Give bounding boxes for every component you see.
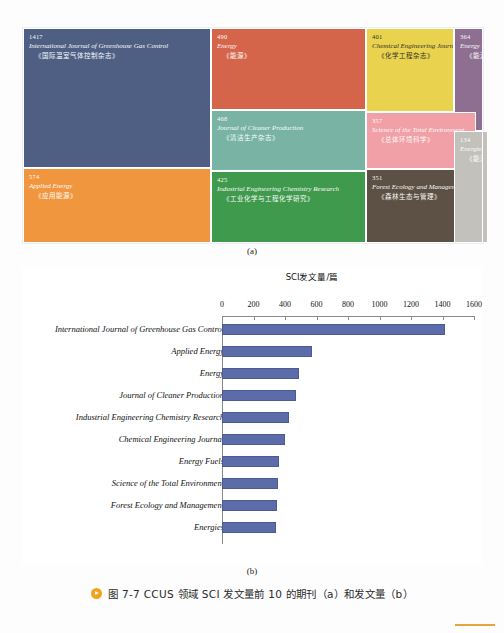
x-axis-tick <box>285 316 286 320</box>
figure-caption: 图 7-7 CCUS 领域 SCI 发文量前 10 的期刊（a）和发文量（b） <box>0 586 504 601</box>
treemap-cell-count: 490 <box>217 33 360 41</box>
bar-row: International Journal of Greenhouse Gas … <box>22 323 482 345</box>
bar-row-label: Energy Fuels <box>0 455 224 467</box>
treemap-cell-title-cn: 《国际温室气体控制杂志》 <box>29 51 205 61</box>
treemap-panel-a: 1417 International Journal of Greenhouse… <box>22 27 484 244</box>
treemap-cell-energy[interactable]: 490 Energy 《能源》 <box>211 28 366 110</box>
x-axis-tick <box>254 316 255 320</box>
treemap-cell-journal-of-cleaner-production[interactable]: 468 Journal of Cleaner Production 《清洁生产杂… <box>211 110 366 171</box>
bar-row: Chemical Engineering Journal <box>22 433 482 455</box>
x-axis-tick-label: 1200 <box>396 300 426 309</box>
x-axis-tick-label: 800 <box>333 300 363 309</box>
bullet-play-icon <box>91 588 102 599</box>
bar[interactable] <box>222 456 279 467</box>
x-axis-tick-label: 1000 <box>365 300 395 309</box>
bar-row-label: International Journal of Greenhouse Gas … <box>0 323 224 335</box>
treemap-cell-title-en: Journal of Cleaner Production <box>217 123 360 133</box>
panel-b-label: (b) <box>0 566 504 576</box>
x-axis-tick <box>380 316 381 320</box>
bar[interactable] <box>222 368 299 379</box>
treemap-cell-title-cn: 《能源燃料》 <box>460 51 477 61</box>
bar-row-label: Science of the Total Environment <box>0 477 224 489</box>
bar-row: Industrial Engineering Chemistry Researc… <box>22 411 482 433</box>
treemap-cell-international-journal-of-greenhouse-gas-control[interactable]: 1417 International Journal of Greenhouse… <box>23 28 211 168</box>
x-axis-tick <box>348 316 349 320</box>
treemap-cell-count: 357 <box>372 117 470 125</box>
x-axis-tick <box>222 316 223 320</box>
bar-row-label: Journal of Cleaner Production <box>0 389 224 401</box>
bar[interactable] <box>222 522 276 533</box>
bar-row: Applied Energy <box>22 345 482 367</box>
bar[interactable] <box>222 324 445 335</box>
figure-caption-text: 图 7-7 CCUS 领域 SCI 发文量前 10 的期刊（a）和发文量（b） <box>108 588 413 600</box>
x-axis-tick-label: 200 <box>239 300 269 309</box>
treemap-cell-title-cn: 《工业化学与工程化学研究》 <box>217 194 360 204</box>
treemap-cell-industrial-engineering-chemistry-research[interactable]: 425 Industrial Engineering Chemistry Res… <box>211 171 366 243</box>
treemap-cell-title-en: International Journal of Greenhouse Gas … <box>29 41 205 51</box>
treemap-cell-title-cn: 《能源》 <box>217 51 360 61</box>
panel-a-label: (a) <box>0 246 504 256</box>
x-axis-tick-label: 600 <box>302 300 332 309</box>
treemap-cell-count: 425 <box>217 176 360 184</box>
bar-row: Energy Fuels <box>22 455 482 477</box>
treemap-cell-title-en: Chemical Engineering Journal <box>372 41 448 51</box>
treemap-cell-count: 364 <box>460 33 477 41</box>
bar-row-label: Industrial Engineering Chemistry Researc… <box>0 411 224 423</box>
bar-row-label: Chemical Engineering Journal <box>0 433 224 445</box>
bar[interactable] <box>222 500 277 511</box>
treemap-cell-title-cn: 《能源》 <box>460 154 477 164</box>
treemap-cell-title-cn: 《清洁生产杂志》 <box>217 133 360 143</box>
bar-row: Journal of Cleaner Production <box>22 389 482 411</box>
bar-row-label: Applied Energy <box>0 345 224 357</box>
bar-row: Forest Ecology and Management <box>22 499 482 521</box>
treemap-cell-energies-body[interactable]: 134 Energies 《能源》 <box>454 131 483 243</box>
bar[interactable] <box>222 434 285 445</box>
bar[interactable] <box>222 412 289 423</box>
bar[interactable] <box>222 346 312 357</box>
x-axis-tick <box>317 316 318 320</box>
x-axis-tick-label: 400 <box>270 300 300 309</box>
bar-row: Energy <box>22 367 482 389</box>
x-axis-tick-label: 1600 <box>459 300 489 309</box>
treemap-cell-title-cn: 《应用能源》 <box>29 191 205 201</box>
treemap-cell-count: 1417 <box>29 33 205 41</box>
treemap-cell-title-en: Energy <box>217 41 360 51</box>
treemap-cell-chemical-engineering-journal[interactable]: 401 Chemical Engineering Journal 《化学工程杂志… <box>366 28 454 112</box>
treemap-cell-title-cn: 《化学工程杂志》 <box>372 51 448 61</box>
treemap-cell-count: 468 <box>217 115 360 123</box>
x-axis-tick <box>411 316 412 320</box>
treemap-cell-count: 134 <box>460 136 477 144</box>
treemap-cell-title-en: Energy Fuels <box>460 41 477 51</box>
treemap-cell-applied-energy[interactable]: 574 Applied Energy 《应用能源》 <box>23 168 211 243</box>
bar-row-label: Energy <box>0 367 224 379</box>
figure-page: 1417 International Journal of Greenhouse… <box>0 0 504 633</box>
x-axis-tick <box>474 316 475 320</box>
x-axis-tick-label: 0 <box>207 300 237 309</box>
bar-chart-panel-b: SCI发文量/篇 02004006008001000120014001600 I… <box>22 268 482 564</box>
treemap-cell-count: 401 <box>372 33 448 41</box>
treemap-cell-title-en: Energies <box>460 144 477 154</box>
x-axis-tick-label: 1400 <box>428 300 458 309</box>
bar[interactable] <box>222 390 296 401</box>
bar-row-label: Forest Ecology and Management <box>0 499 224 511</box>
chart-axis-title: SCI发文量/篇 <box>212 270 412 282</box>
x-axis-tick <box>443 316 444 320</box>
bar-row: Science of the Total Environment <box>22 477 482 499</box>
treemap-cell-title-en: Applied Energy <box>29 181 205 191</box>
bar[interactable] <box>222 478 278 489</box>
bar-row-label: Energies <box>0 521 224 533</box>
treemap-cell-title-en: Industrial Engineering Chemistry Researc… <box>217 184 360 194</box>
footer-rule <box>455 624 495 626</box>
treemap-cell-count: 574 <box>29 173 205 181</box>
bar-row: Energies <box>22 521 482 543</box>
